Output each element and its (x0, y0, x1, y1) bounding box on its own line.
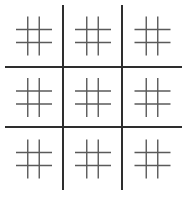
mini-grid-icon (64, 5, 122, 67)
sub-board-bottom-left[interactable] (5, 128, 63, 190)
sub-board-top-center[interactable] (64, 5, 122, 67)
mini-grid-icon (64, 128, 122, 190)
sub-board-bottom-center[interactable] (64, 128, 122, 190)
sub-board-center[interactable] (64, 68, 122, 127)
sub-board-top-right[interactable] (123, 5, 182, 67)
ultimate-tic-tac-toe-board (0, 0, 186, 197)
mini-grid-icon (123, 5, 182, 67)
mini-grid-icon (5, 128, 63, 190)
mini-grid-icon (64, 68, 122, 127)
sub-board-middle-right[interactable] (123, 68, 182, 127)
mini-grid-icon (5, 68, 63, 127)
sub-board-bottom-right[interactable] (123, 128, 182, 190)
sub-board-middle-left[interactable] (5, 68, 63, 127)
mini-grid-icon (123, 68, 182, 127)
sub-board-top-left[interactable] (5, 5, 63, 67)
mini-grid-icon (5, 5, 63, 67)
mini-grid-icon (123, 128, 182, 190)
